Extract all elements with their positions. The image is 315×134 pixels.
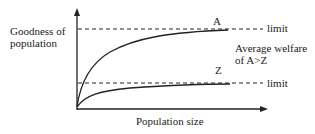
- y-axis-label-line2: population: [10, 37, 57, 50]
- upper-limit-label: limit: [267, 22, 288, 35]
- x-axis: [77, 106, 268, 112]
- curve-a: [77, 30, 228, 107]
- curve-z: [77, 84, 230, 107]
- curve-z-label: Z: [215, 64, 222, 77]
- x-axis-label: Population size: [136, 115, 204, 128]
- diagram-canvas: [0, 0, 315, 134]
- curve-a-label: A: [213, 15, 221, 28]
- annotation-line2: of A>Z: [235, 54, 267, 67]
- lower-limit-label: limit: [267, 77, 288, 90]
